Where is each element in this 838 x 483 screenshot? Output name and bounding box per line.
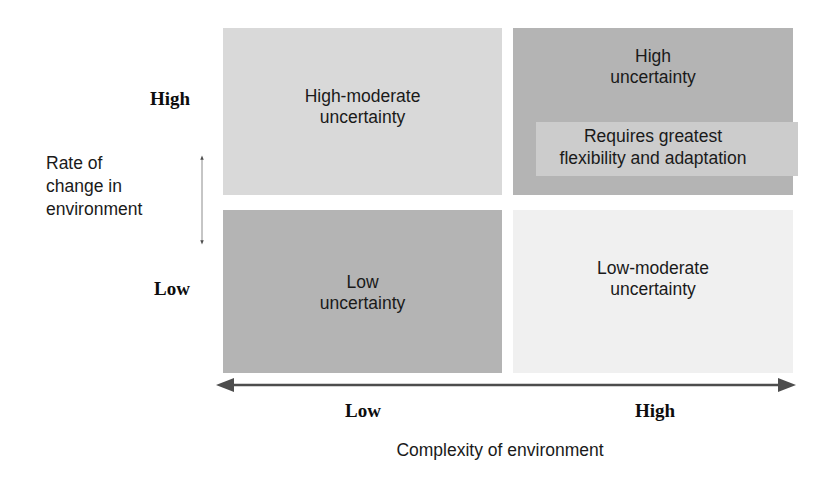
y-axis-tick-low: Low: [0, 278, 190, 300]
y-axis-tick-high: High: [0, 88, 190, 110]
quadrant-note-requires-greatest-flexibility: Requires greatest flexibility and adapta…: [513, 125, 793, 169]
quadrant-high-uncertainty: High uncertainty Requires greatest flexi…: [513, 28, 793, 195]
quadrant-label-high-moderate-uncertainty: High-moderate uncertainty: [223, 86, 502, 128]
uncertainty-matrix-diagram: High-moderate uncertainty High uncertain…: [0, 0, 838, 483]
quadrant-label-high-uncertainty: High uncertainty: [513, 46, 793, 88]
quadrant-high-moderate-uncertainty: High-moderate uncertainty: [223, 28, 502, 195]
x-axis-arrow: [216, 377, 796, 393]
y-axis-title: Rate of change in environment: [46, 152, 196, 221]
quadrant-low-uncertainty: Low uncertainty: [223, 210, 502, 373]
quadrant-low-moderate-uncertainty: Low-moderate uncertainty: [513, 210, 793, 373]
x-axis-tick-low: Low: [303, 400, 423, 422]
quadrant-label-low-moderate-uncertainty: Low-moderate uncertainty: [513, 258, 793, 300]
x-axis-title: Complexity of environment: [330, 440, 670, 461]
y-axis-arrow: [200, 22, 204, 378]
quadrant-label-low-uncertainty: Low uncertainty: [223, 272, 502, 314]
x-axis-tick-high: High: [595, 400, 715, 422]
